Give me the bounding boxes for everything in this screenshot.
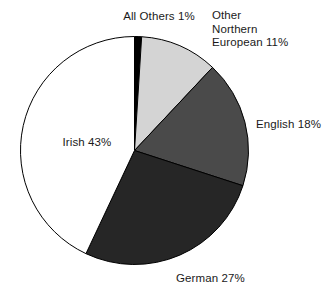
pie-chart: All Others 1% Other Northern European 11… [0, 0, 329, 297]
pie-label-other-northern-european: Other Northern European 11% [212, 9, 324, 50]
pie-label-irish: Irish 43% [47, 136, 127, 150]
pie-slices [20, 36, 248, 264]
pie-label-all-others: All Others 1% [99, 10, 219, 24]
pie-label-german: German 27% [176, 272, 286, 286]
pie-label-english: English 18% [256, 118, 329, 132]
